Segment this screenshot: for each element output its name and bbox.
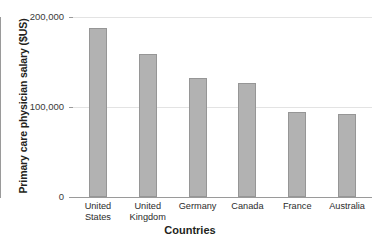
bar-canada	[238, 83, 256, 197]
bar-chart-figure: Primary care physician salary ($US) 0100…	[0, 0, 380, 243]
bar-australia	[338, 114, 356, 197]
y-tick-label: 100,000	[0, 101, 64, 112]
category-label-united-states: United States	[73, 201, 123, 223]
plot-area	[73, 17, 372, 197]
category-label-canada: Canada	[223, 201, 273, 212]
x-axis-line	[73, 197, 372, 198]
bar-france	[288, 112, 306, 198]
x-axis-title: Countries	[0, 224, 380, 236]
y-tick-label: 200,000	[0, 11, 64, 22]
category-label-united-kingdom: United Kingdom	[123, 201, 173, 223]
bar-united-states	[89, 28, 107, 197]
bar-germany	[189, 78, 207, 197]
y-tick-label: 0	[0, 191, 64, 202]
category-label-france: France	[272, 201, 322, 212]
category-label-germany: Germany	[173, 201, 223, 212]
bar-united-kingdom	[139, 54, 157, 197]
tick-mark	[69, 197, 73, 198]
category-label-australia: Australia	[322, 201, 372, 212]
